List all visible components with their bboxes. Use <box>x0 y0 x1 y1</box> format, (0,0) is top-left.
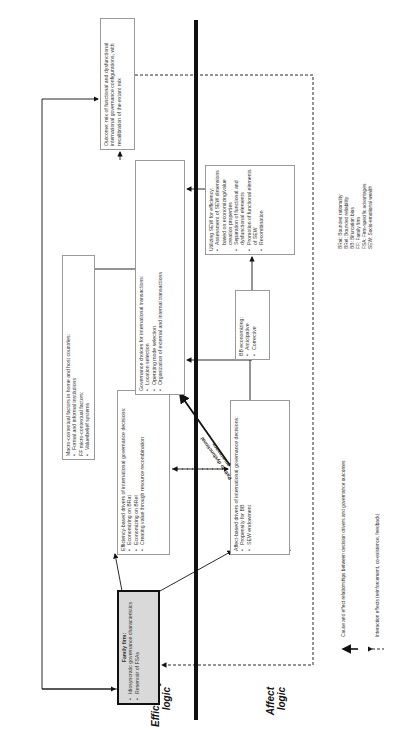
affect-logic-label: Affect logic <box>265 687 287 727</box>
sew-efficiency-box: Utilizing SEW for efficiency: Assessment… <box>205 165 295 255</box>
bb-economizing-box: BB economizing: AnticipativeCorrective <box>235 290 270 360</box>
family-firm-box: Family firm: Idiosyncratic governance ch… <box>117 590 160 705</box>
legend-dashed: Interaction effects (reinforcement, co-e… <box>375 337 381 637</box>
efficiency-drivers-box: Efficiency-based drivers of internationa… <box>117 390 170 555</box>
diagram-canvas: Efficiency logic Affect logic Family fir… <box>0 0 401 729</box>
outcome-box: Outcome: mix of functional and dysfuncti… <box>100 18 135 150</box>
abbreviations-list: BRat: Bounded rationality BRel: Bounded … <box>338 129 374 249</box>
governance-choices-box: Governance choices for international tra… <box>135 160 185 395</box>
affect-drivers-box: Affect-based drivers of international go… <box>230 400 290 555</box>
legend-solid: Cause and effect relationships between d… <box>341 337 347 637</box>
macro-context-box: Macro-contextual factors in home and hos… <box>62 255 95 460</box>
